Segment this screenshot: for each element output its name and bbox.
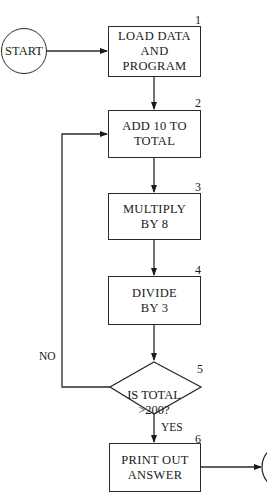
step-number-2: 2 — [195, 97, 201, 109]
decision-is-total-gt-200: IS TOTAL >200? — [118, 373, 190, 418]
step-print-answer: PRINT OUT ANSWER — [109, 443, 201, 492]
start-terminal: START — [1, 28, 47, 74]
step-add-10: ADD 10 TO TOTAL — [108, 110, 201, 158]
step-load-data: LOAD DATA AND PROGRAM — [108, 26, 201, 77]
step-number-3: 3 — [195, 181, 201, 193]
step-label: PRINT OUT ANSWER — [121, 453, 188, 483]
start-label: START — [5, 44, 43, 59]
step-label: ADD 10 TO TOTAL — [122, 119, 187, 149]
step-multiply: MULTIPLY BY 8 — [108, 193, 201, 240]
step-number-5: 5 — [197, 363, 203, 375]
step-label: DIVIDE BY 3 — [132, 286, 177, 316]
step-number-4: 4 — [195, 264, 201, 276]
step-number-1: 1 — [195, 14, 201, 26]
step-divide: DIVIDE BY 3 — [108, 276, 201, 325]
step-label: LOAD DATA AND PROGRAM — [118, 29, 191, 74]
branch-no-label: NO — [39, 350, 56, 362]
step-label: MULTIPLY BY 8 — [123, 202, 186, 232]
decision-label: IS TOTAL >200? — [127, 388, 181, 417]
branch-yes-label: YES — [161, 421, 183, 433]
